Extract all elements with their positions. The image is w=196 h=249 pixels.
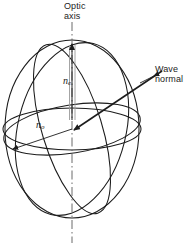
- no-arrow: [13, 129, 72, 149]
- wave-normal-ray: [74, 71, 162, 130]
- wave-normal-label: Wave normal: [155, 64, 183, 84]
- no-subscript: o: [41, 123, 45, 131]
- ne-label: ne: [63, 75, 71, 87]
- optic-axis-label: Optic axis: [64, 1, 86, 21]
- ne-subscript: e: [68, 79, 71, 87]
- no-label: no: [36, 119, 45, 131]
- index-ellipsoid-figure: [0, 0, 196, 249]
